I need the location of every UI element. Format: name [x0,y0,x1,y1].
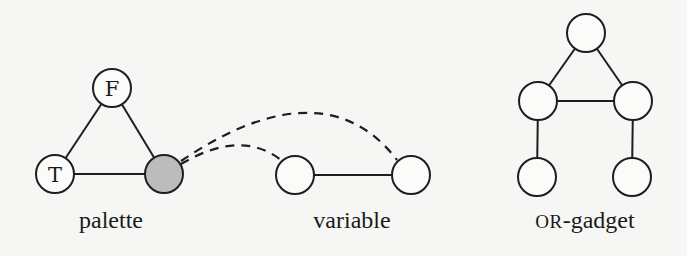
node-palette-F: F [93,69,131,107]
dashed-edge-X-v2 [181,113,397,161]
node-or-gadget-bl [518,158,556,196]
caption-or-gadget: OR-gadget [535,207,634,234]
node-circle [276,156,314,194]
dashed-edge-X-v1 [181,145,281,164]
node-circle [567,14,605,52]
node-circle [518,158,556,196]
node-label-F: F [105,77,120,101]
node-variable-v2 [392,156,430,194]
graph-gadgets-figure: FT palette variable OR-gadget [0,0,687,256]
caption-palette: palette [79,207,143,234]
caption-or-rest: -gadget [563,207,635,233]
caption-palette-text: palette [79,207,143,233]
node-palette-X [145,155,183,193]
node-circle [613,158,651,196]
caption-variable-text: variable [313,207,390,233]
caption-or-smallcaps: OR [535,211,562,232]
node-circle [614,82,652,120]
node-circle [145,155,183,193]
node-or-gadget-mr [614,82,652,120]
node-circle [392,156,430,194]
node-or-gadget-br [613,158,651,196]
node-circle [519,82,557,120]
node-or-gadget-top [567,14,605,52]
caption-variable: variable [313,207,390,234]
node-label-T: T [48,163,62,187]
node-or-gadget-ml [519,82,557,120]
node-variable-v1 [276,156,314,194]
nodes-layer: FT [36,14,652,196]
node-palette-T: T [36,155,74,193]
